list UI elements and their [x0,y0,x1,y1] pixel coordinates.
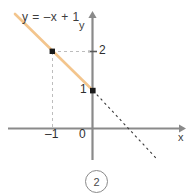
y-tick-label-2: 2 [99,45,106,56]
y-axis-label: y [79,20,85,31]
origin-label: 0 [79,129,86,140]
point-minus1-2 [50,49,55,54]
x-axis-label: x [178,132,184,143]
equation-label: y = –x + 1 [22,12,80,23]
coordinate-plane-graphic [0,0,192,195]
point-0-1 [90,88,96,94]
figure-number-badge: 2 [85,170,108,193]
x-tick-label-minus-1: –1 [45,129,58,140]
line-dashed-extension [93,91,156,159]
figure-container: y = –x + 1 y x 2 1 0 –1 2 [0,0,192,195]
y-tick-label-1: 1 [80,84,87,95]
y-axis-arrow [88,11,96,18]
